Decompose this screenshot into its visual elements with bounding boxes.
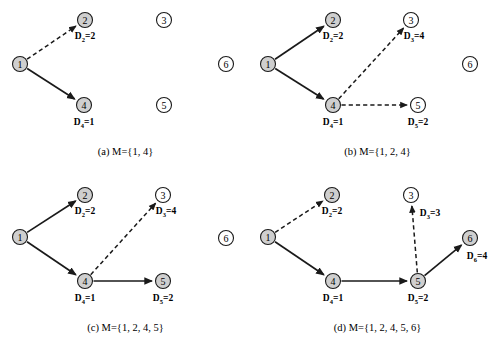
distance-label-2: D2=2 — [323, 32, 343, 43]
node-1[interactable]: 1 — [261, 230, 276, 245]
edge-1-to-4-solid — [275, 242, 324, 275]
node-label-6: 6 — [468, 59, 473, 70]
node-label-1: 1 — [266, 232, 271, 243]
edge-1-to-2-dashed — [275, 201, 323, 232]
distance-label-4: D4=1 — [323, 118, 343, 129]
node-2[interactable]: 2 — [326, 13, 341, 28]
node-2[interactable]: 2 — [78, 13, 93, 28]
edge-1-to-4-solid — [27, 69, 74, 99]
distance-label-4: D4=1 — [323, 294, 343, 305]
node-label-4: 4 — [331, 276, 336, 287]
distance-label-5: D5=2 — [408, 294, 428, 305]
node-6[interactable]: 6 — [463, 57, 478, 72]
node-label-5: 5 — [162, 100, 167, 111]
distance-label-5: D5=2 — [408, 118, 428, 129]
caption-b: (b) M={1, 2, 4} — [252, 146, 503, 157]
node-2[interactable]: 2 — [78, 188, 93, 203]
node-6[interactable]: 6 — [219, 231, 234, 246]
caption-a: (a) M={1, 4} — [0, 146, 251, 157]
node-3[interactable]: 3 — [404, 188, 419, 203]
distance-label-5: D5=2 — [153, 294, 173, 305]
figure-container: 123456D2=2D4=1(a) M={1, 4}123456D2=2D3=4… — [0, 0, 503, 352]
distance-label-2: D2=2 — [322, 207, 342, 218]
node-5[interactable]: 5 — [411, 274, 426, 289]
node-4[interactable]: 4 — [77, 98, 92, 113]
node-1[interactable]: 1 — [13, 57, 28, 72]
node-6[interactable]: 6 — [463, 231, 478, 246]
node-label-1: 1 — [18, 232, 23, 243]
distance-label-2: D2=2 — [75, 207, 95, 218]
edge-5-to-6-solid — [425, 245, 462, 276]
node-2[interactable]: 2 — [325, 188, 340, 203]
edge-4-to-3-dashed — [91, 203, 156, 274]
caption-c: (c) M={1, 2, 4, 5} — [0, 322, 251, 333]
distance-label-4: D4=1 — [74, 118, 94, 129]
node-3[interactable]: 3 — [156, 188, 171, 203]
node-label-2: 2 — [330, 190, 335, 201]
node-label-2: 2 — [83, 190, 88, 201]
panel-a: 123456D2=2D4=1(a) M={1, 4} — [0, 0, 251, 176]
node-label-1: 1 — [266, 59, 271, 70]
edge-4-to-3-dashed — [339, 28, 404, 99]
node-label-5: 5 — [416, 276, 421, 287]
distance-label-2: D2=2 — [75, 32, 95, 43]
node-group: 123456 — [13, 188, 234, 289]
node-label-3: 3 — [161, 190, 166, 201]
node-label-3: 3 — [162, 15, 167, 26]
node-label-3: 3 — [409, 15, 414, 26]
distance-label-6: D6=4 — [467, 252, 487, 263]
node-label-2: 2 — [83, 15, 88, 26]
node-label-6: 6 — [468, 233, 473, 244]
edge-1-to-2-solid — [27, 201, 76, 232]
node-6[interactable]: 6 — [219, 57, 234, 72]
distance-label-3: D3=3 — [420, 209, 440, 220]
node-label-4: 4 — [82, 100, 87, 111]
node-5[interactable]: 5 — [157, 98, 172, 113]
edge-1-to-4-solid — [27, 242, 76, 275]
edge-group — [27, 26, 76, 99]
distance-label-3: D3=4 — [404, 32, 424, 43]
panel-c: 123456D2=2D3=4D4=1D5=2(c) M={1, 2, 4, 5} — [0, 176, 251, 352]
edge-1-to-2-dashed — [27, 26, 76, 59]
node-label-5: 5 — [416, 100, 421, 111]
node-4[interactable]: 4 — [78, 274, 93, 289]
node-label-6: 6 — [224, 59, 229, 70]
edge-5-to-3-dashed — [412, 206, 417, 272]
edge-1-to-4-solid — [275, 69, 323, 100]
panel-d: 123456D2=2D3=3D4=1D5=2D6=4(d) M={1, 2, 4… — [252, 176, 503, 352]
node-5[interactable]: 5 — [156, 274, 171, 289]
edge-1-to-2-solid — [275, 26, 324, 59]
node-4[interactable]: 4 — [326, 274, 341, 289]
node-3[interactable]: 3 — [157, 13, 172, 28]
node-group: 123456 — [13, 13, 234, 113]
node-label-1: 1 — [18, 59, 23, 70]
node-1[interactable]: 1 — [13, 230, 28, 245]
node-3[interactable]: 3 — [404, 13, 419, 28]
node-group: 123456 — [261, 188, 478, 289]
caption-d: (d) M={1, 2, 4, 5, 6} — [252, 322, 503, 333]
node-group: 123456 — [261, 13, 478, 113]
node-4[interactable]: 4 — [326, 98, 341, 113]
node-1[interactable]: 1 — [261, 57, 276, 72]
node-5[interactable]: 5 — [411, 98, 426, 113]
node-label-4: 4 — [331, 100, 336, 111]
node-label-5: 5 — [161, 276, 166, 287]
distance-label-3: D3=4 — [156, 207, 176, 218]
panel-b: 123456D2=2D3=4D4=1D5=2(b) M={1, 2, 4} — [252, 0, 503, 176]
node-label-4: 4 — [83, 276, 88, 287]
node-label-6: 6 — [224, 233, 229, 244]
distance-label-4: D4=1 — [75, 294, 95, 305]
node-label-3: 3 — [409, 190, 414, 201]
node-label-2: 2 — [331, 15, 336, 26]
